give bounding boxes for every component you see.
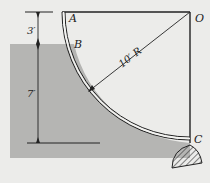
- gate-diagram: A B O C 3′ 7′ 10′ R: [0, 0, 210, 183]
- label-O: O: [195, 12, 204, 25]
- label-A: A: [68, 12, 77, 25]
- arrow-3-top: [36, 12, 40, 18]
- label-B: B: [73, 38, 82, 51]
- arrow-3-bottom: [36, 38, 40, 44]
- label-radius: 10′ R: [116, 45, 143, 70]
- label-3ft: 3′: [27, 25, 36, 36]
- label-C: C: [194, 133, 203, 146]
- label-7ft: 7′: [27, 88, 36, 99]
